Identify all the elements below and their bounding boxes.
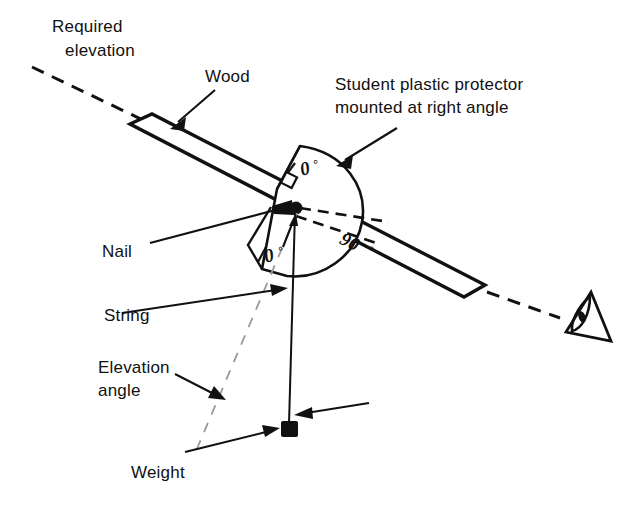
required-elevation-dash — [32, 67, 147, 122]
weight-leader-line — [185, 432, 266, 452]
elevation-angle-label-line1: Elevation — [98, 358, 170, 377]
figure-canvas: Required elevation Wood Student plastic … — [0, 0, 635, 513]
elevation-angle-leader — [175, 374, 226, 400]
eye-sightline — [487, 292, 560, 318]
string-leader-arrowhead — [270, 284, 288, 296]
nail-label: Nail — [102, 242, 132, 261]
eye-sightline-dash — [487, 292, 560, 318]
weight-label: Weight — [131, 463, 185, 482]
eye-icon — [566, 292, 611, 341]
nail-leader-line — [150, 208, 283, 243]
wood-leader-line — [178, 90, 215, 122]
nail-leader — [150, 208, 283, 243]
elevation-angle-label-line2: angle — [98, 381, 141, 400]
protractor-label-line1: Student plastic protector — [335, 75, 523, 94]
weight-leader — [185, 425, 280, 452]
weight-block-body — [281, 421, 298, 437]
wood-leader — [170, 90, 215, 131]
weight-pointer-line — [306, 403, 369, 413]
weight-block-icon — [281, 421, 298, 437]
wood-label: Wood — [205, 67, 250, 86]
required-elevation-label-line2: elevation — [65, 41, 135, 60]
string-label: String — [104, 306, 150, 325]
required-elevation-label-line1: Required — [52, 17, 123, 36]
protractor-leader — [336, 128, 397, 169]
weight-pointer-arrow — [294, 403, 369, 419]
elevation-angle-leader-arrowhead — [208, 386, 226, 400]
eye-outer-triangle — [566, 292, 611, 341]
elevation-angle-leader-line — [175, 374, 214, 394]
protractor-label-line2: mounted at right angle — [335, 98, 509, 117]
required-elevation-sightline — [32, 67, 147, 122]
nail-head-dot — [290, 202, 303, 215]
clinometer-diagram: Required elevation Wood Student plastic … — [0, 0, 635, 513]
weight-leader-arrowhead — [262, 425, 280, 437]
weight-pointer-arrowhead — [294, 407, 313, 419]
